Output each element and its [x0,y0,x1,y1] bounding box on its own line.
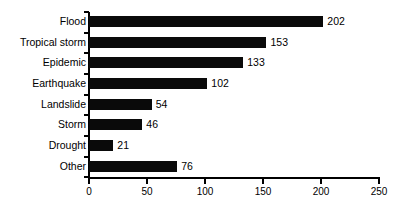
category-label-landslide: Landslide [41,98,86,110]
y-axis-tick [84,73,89,75]
x-axis-line [88,177,380,179]
bar-flood [89,16,323,27]
x-axis-tick [146,179,148,184]
bar-other [89,161,177,172]
bar-value-epidemic: 133 [247,57,265,68]
x-axis-tick [88,179,90,184]
category-label-epidemic: Epidemic [43,56,86,68]
bar-chart: Flood Tropical storm Epidemic Earthquake… [0,0,400,208]
category-label-flood: Flood [60,15,86,27]
category-label-tropical-storm: Tropical storm [20,36,86,48]
bar-value-other: 76 [181,161,193,172]
y-axis-tick [84,32,89,34]
y-axis-tick [84,94,89,96]
bar-tropical-storm [89,37,266,48]
x-axis-tick [204,179,206,184]
y-axis-tick [84,114,89,116]
bar-drought [89,140,113,151]
category-label-other: Other [60,160,86,172]
bar-landslide [89,99,152,110]
category-label-earthquake: Earthquake [32,77,86,89]
bar-value-drought: 21 [117,140,129,151]
bar-value-storm: 46 [146,119,158,130]
y-axis-tick [84,52,89,54]
x-axis-tick-label-0: 0 [69,186,109,198]
x-axis-tick-label-150: 150 [243,186,283,198]
bar-value-earthquake: 102 [211,78,229,89]
x-axis-tick [320,179,322,184]
bar-storm [89,119,142,130]
category-label-drought: Drought [49,139,86,151]
y-axis-tick [84,176,89,178]
x-axis-tick-label-250: 250 [359,186,399,198]
category-label-storm: Storm [58,118,86,130]
bar-epidemic [89,57,243,68]
y-axis-tick [84,135,89,137]
bar-value-landslide: 54 [156,99,168,110]
bar-earthquake [89,78,207,89]
bar-value-flood: 202 [327,16,345,27]
y-axis-tick [84,11,89,13]
x-axis-tick-label-200: 200 [301,186,341,198]
x-axis-tick-label-50: 50 [127,186,167,198]
x-axis-tick-label-100: 100 [185,186,225,198]
x-axis-tick [378,179,380,184]
bar-value-tropical-storm: 153 [270,37,288,48]
y-axis-tick [84,156,89,158]
x-axis-tick [262,179,264,184]
